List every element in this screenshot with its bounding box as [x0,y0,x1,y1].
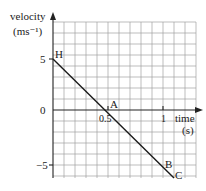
y-tick-0: 0 [40,104,46,116]
grid [53,22,196,178]
axes [49,12,203,178]
y-tick-5: 5 [40,53,46,65]
y-axis-unit: (ms⁻¹) [13,25,43,38]
point-label-B: B [165,158,172,170]
x-tick-1: 1 [161,113,166,124]
point-label-H: H [55,48,63,60]
x-tick-0.5: 0.5 [99,113,112,124]
y-tick-minus5: −5 [36,159,48,171]
point-label-C: C [175,169,182,181]
velocity-time-chart: velocity (ms⁻¹) time (s) 5 0 −5 0.5 1 H … [0,0,206,191]
x-axis-label: time [175,112,195,124]
x-axis-unit: (s) [182,124,194,137]
y-axis-label: velocity [10,10,46,22]
point-label-A: A [110,98,118,110]
y-axis-arrow-icon [50,12,56,20]
x-axis-arrow-icon [195,107,203,113]
